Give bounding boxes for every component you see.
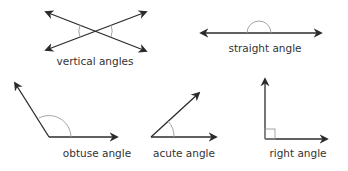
angles-diagram: vertical angles straight angle obtuse an… xyxy=(0,0,348,171)
obtuse-angle-figure: obtuse angle xyxy=(15,83,131,159)
straight-angle-figure: straight angle xyxy=(201,21,321,54)
angle-arc-left xyxy=(79,25,80,37)
angle-arc xyxy=(168,121,174,137)
vertical-angles-figure: vertical angles xyxy=(46,12,146,67)
right-angle-label: right angle xyxy=(269,147,326,159)
acute-angle-label: acute angle xyxy=(153,147,215,159)
right-angle-square xyxy=(265,129,275,139)
acute-angle-figure: acute angle xyxy=(151,93,216,159)
angle-arc xyxy=(39,116,71,137)
straight-angle-label: straight angle xyxy=(228,42,301,54)
angle-arc xyxy=(247,21,271,33)
vertical-angles-label: vertical angles xyxy=(56,55,133,67)
right-angle-figure: right angle xyxy=(265,79,327,159)
angle-arc-right xyxy=(111,25,112,37)
obtuse-angle-label: obtuse angle xyxy=(63,147,131,159)
